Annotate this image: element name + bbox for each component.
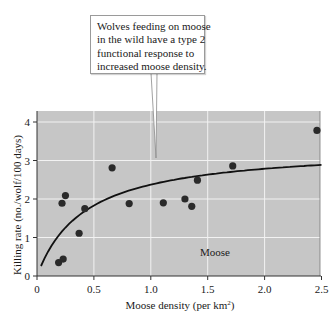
y-tick-label: 2 — [25, 193, 31, 205]
plot-background — [37, 111, 320, 276]
y-tick-label: 3 — [25, 155, 31, 167]
data-point — [81, 205, 88, 212]
callout-line: functional response to — [97, 47, 198, 60]
annotation-callout: Wolves feeding on moose in the wild have… — [90, 15, 205, 74]
x-tick-label: 2.5 — [315, 283, 329, 295]
data-point — [58, 200, 65, 207]
callout-line: Wolves feeding on moose — [97, 20, 198, 33]
y-tick-label: 1 — [25, 232, 31, 244]
data-point — [313, 127, 320, 134]
data-point — [188, 203, 195, 210]
x-axis-label-close: ) — [231, 299, 235, 311]
data-point — [76, 230, 83, 237]
data-point — [62, 192, 69, 199]
x-tick-label: 1.5 — [201, 283, 215, 295]
y-axis-label: Killing rate (no./wolf/100 days) — [11, 135, 23, 275]
data-point — [160, 199, 167, 206]
data-point — [109, 164, 116, 171]
x-axis-label: Moose density (per km2) — [126, 299, 235, 311]
y-tick-label: 0 — [25, 270, 31, 282]
callout-line: in the wild have a type 2 — [97, 33, 198, 46]
data-point — [229, 162, 236, 169]
data-point — [194, 177, 201, 184]
x-tick-label: 1.0 — [144, 283, 158, 295]
x-tick-label: 0 — [34, 283, 40, 295]
callout-line: increased moose density. — [97, 60, 198, 73]
data-point — [60, 255, 67, 262]
data-point — [181, 195, 188, 202]
x-tick-label: 2.0 — [258, 283, 272, 295]
x-axis-label-text: Moose density (per km — [126, 299, 228, 311]
x-tick-label: 0.5 — [87, 283, 101, 295]
y-tick-label: 4 — [25, 116, 31, 128]
series-label-moose: Moose — [200, 246, 230, 258]
data-point — [126, 200, 133, 207]
